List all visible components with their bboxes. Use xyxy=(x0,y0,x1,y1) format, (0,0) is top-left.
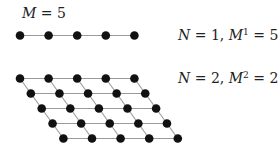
lattice-site xyxy=(130,74,139,83)
lattice-site xyxy=(102,74,111,83)
lattice-site xyxy=(134,119,143,128)
lattice-site xyxy=(174,134,183,143)
lattice-site xyxy=(88,134,97,143)
two-dimensional-lattice xyxy=(16,74,182,143)
lattice-site xyxy=(37,104,46,113)
lattice-site xyxy=(84,89,93,98)
lattice-site xyxy=(44,31,53,40)
one-dimensional-chain xyxy=(16,31,139,40)
lattice-site xyxy=(130,31,139,40)
lattice-site xyxy=(73,31,82,40)
label-m-equals-5: M = 5 xyxy=(21,5,66,21)
lattice-site xyxy=(145,134,154,143)
lattice-site xyxy=(102,31,111,40)
lattice-site xyxy=(77,119,86,128)
lattice-site xyxy=(116,134,125,143)
lattice-site xyxy=(48,119,57,128)
lattice-diagram: M = 5 N = 1, M1 = 5 N = 2, M2 = 25 xyxy=(0,0,278,152)
lattice-site xyxy=(105,119,114,128)
label-n2: N = 2, M2 = 25 xyxy=(177,70,278,86)
lattice-site xyxy=(152,104,161,113)
lattice-site xyxy=(59,134,68,143)
lattice-site xyxy=(27,89,36,98)
lattice-site xyxy=(66,104,75,113)
lattice-site xyxy=(73,74,82,83)
lattice-site xyxy=(16,74,25,83)
lattice-site xyxy=(16,31,25,40)
lattice-site xyxy=(123,104,132,113)
lattice-site xyxy=(141,89,150,98)
lattice-site xyxy=(44,74,53,83)
lattice-site xyxy=(95,104,104,113)
lattice-site xyxy=(55,89,64,98)
lattice-site xyxy=(163,119,172,128)
lattice-site xyxy=(112,89,121,98)
label-n1: N = 1, M1 = 5 xyxy=(177,27,278,43)
